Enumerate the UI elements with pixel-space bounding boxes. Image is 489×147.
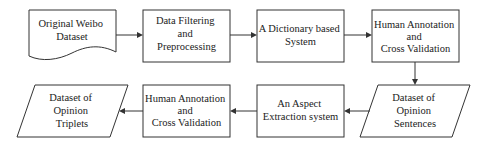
node-human-annotation-2: Human Annotation and Cross Validation [143, 85, 230, 137]
label-line: and [407, 31, 423, 42]
node-aspect-extraction: An Aspect Extraction system [257, 85, 344, 137]
node-opinion-triplets: Dataset of Opinion Triplets [17, 85, 128, 137]
label-line: Original Weibo [38, 18, 103, 29]
node-data-filtering: Data Filtering and Preprocessing [143, 10, 230, 62]
arrowhead-icon [251, 32, 257, 38]
node-label: Dataset of Opinion Triplets [49, 92, 94, 129]
arrowhead-icon [344, 108, 350, 114]
label-line: A Dictionary based [259, 23, 341, 34]
label-line: Opinion [53, 105, 88, 116]
arrowhead-icon [366, 32, 372, 38]
edge-human2-to-triplets [119, 108, 143, 114]
node-opinion-sentences: Dataset of Opinion Sentences [360, 85, 470, 137]
node-dictionary-system: A Dictionary based System [257, 10, 344, 62]
label-line: Sentences [394, 118, 436, 129]
label-line: Extraction system [263, 111, 339, 122]
label-line: Data Filtering [156, 15, 215, 26]
edge-aspect-to-human2 [230, 108, 257, 114]
node-human-annotation-1: Human Annotation and Cross Validation [372, 10, 459, 62]
label-line: Dataset of [49, 92, 92, 103]
label-line: and [178, 28, 194, 39]
edge-dict-to-human1 [344, 32, 372, 38]
label-line: An Aspect [277, 98, 321, 109]
label-line: System [285, 36, 316, 47]
label-line: Preprocessing [157, 41, 217, 52]
flowchart: Original Weibo Dataset Data Filtering an… [0, 0, 489, 147]
node-original-weibo-dataset: Original Weibo Dataset [29, 10, 116, 60]
label-line: Dataset [56, 31, 88, 42]
label-line: Triplets [56, 118, 88, 129]
edge-human1-to-sentences [412, 62, 418, 85]
node-label: Dataset of Opinion Sentences [392, 92, 437, 129]
label-line: Cross Validation [381, 43, 451, 54]
arrowhead-icon [412, 79, 418, 85]
label-line: Cross Validation [152, 117, 222, 128]
edge-filter-to-dict [230, 32, 257, 38]
arrowhead-icon [230, 108, 236, 114]
edge-weibo-to-filter [116, 32, 143, 38]
edge-sentences-to-aspect [344, 108, 370, 114]
label-line: Human Annotation [145, 93, 226, 104]
label-line: Opinion [396, 105, 431, 116]
label-line: and [178, 105, 194, 116]
label-line: Dataset of [392, 92, 435, 103]
arrowhead-icon [137, 32, 143, 38]
label-line: Human Annotation [374, 19, 455, 30]
